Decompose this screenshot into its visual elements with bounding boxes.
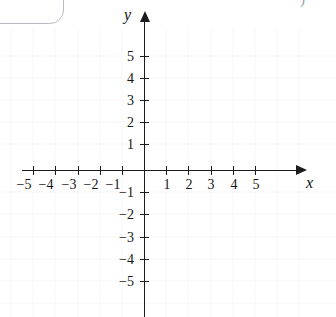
x-tick xyxy=(233,166,234,175)
x-tick xyxy=(211,166,212,175)
x-tick xyxy=(100,166,101,175)
scan-artifact-paren: ) xyxy=(300,0,316,7)
x-tick-label: −4 xyxy=(36,178,56,192)
y-tick-label: −4 xyxy=(108,253,134,267)
y-tick xyxy=(140,100,149,101)
y-tick xyxy=(140,259,149,260)
faint-background-grid xyxy=(0,0,336,317)
y-tick xyxy=(140,192,149,193)
x-tick xyxy=(188,166,189,175)
y-tick-label: 1 xyxy=(108,138,134,152)
x-tick-label: −2 xyxy=(81,178,101,192)
y-tick xyxy=(140,237,149,238)
x-tick-label: −3 xyxy=(59,178,79,192)
x-tick xyxy=(255,166,256,175)
y-tick-label: 4 xyxy=(108,72,134,86)
y-axis-arrowhead xyxy=(140,11,150,22)
y-tick-label: 2 xyxy=(108,116,134,130)
x-axis-label: x xyxy=(306,174,313,192)
y-tick-label: 5 xyxy=(108,50,134,64)
y-tick xyxy=(140,144,149,145)
y-tick-label: −2 xyxy=(108,208,134,222)
coordinate-plane-figure: ) x y −5 −4 −3 −2 −1 1 2 3 4 5 5 4 3 2 1… xyxy=(0,0,336,317)
y-tick-label: 3 xyxy=(108,94,134,108)
x-tick xyxy=(122,166,123,175)
y-tick-label: −1 xyxy=(108,186,134,200)
x-tick-label: −5 xyxy=(14,178,34,192)
y-tick xyxy=(140,56,149,57)
y-tick xyxy=(140,281,149,282)
x-tick xyxy=(33,166,34,175)
y-axis-label: y xyxy=(124,6,131,24)
x-tick xyxy=(166,166,167,175)
x-tick-label: 5 xyxy=(246,178,266,192)
y-tick xyxy=(140,122,149,123)
x-tick-label: 2 xyxy=(179,178,199,192)
y-tick xyxy=(140,214,149,215)
x-tick-label: 4 xyxy=(224,178,244,192)
x-tick xyxy=(55,166,56,175)
y-axis-line xyxy=(144,22,145,317)
y-tick xyxy=(140,78,149,79)
x-tick-label: 3 xyxy=(201,178,221,192)
x-tick xyxy=(78,166,79,175)
x-tick-label: 1 xyxy=(157,178,177,192)
y-tick-label: −5 xyxy=(108,275,134,289)
y-tick-label: −3 xyxy=(108,231,134,245)
scan-artifact-rounded-corner xyxy=(0,0,64,24)
